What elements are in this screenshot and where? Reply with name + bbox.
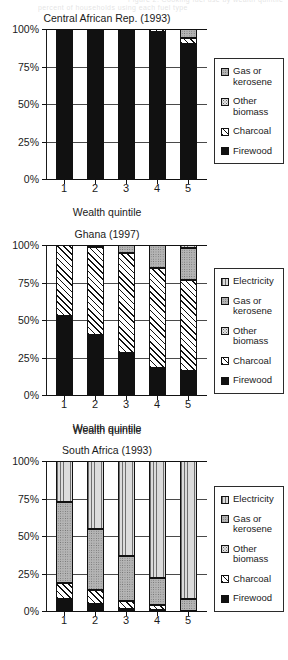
bar-segment-charcoal bbox=[87, 247, 104, 335]
x-axis-label: 3 bbox=[111, 614, 141, 626]
legend-item[interactable]: Gas or kerosene bbox=[221, 66, 278, 87]
legend-item[interactable]: Electricity bbox=[221, 276, 278, 287]
clipped-header-line1: Figure 2. Cooking fuel use by wealth qui… bbox=[128, 0, 283, 3]
stacked-bar bbox=[118, 245, 135, 395]
x-axis-label: 2 bbox=[80, 614, 110, 626]
bar-segment-firewood bbox=[56, 599, 73, 611]
plot-area: 100%75%50%25%0%12345 bbox=[46, 29, 206, 179]
y-axis-label: 25% bbox=[18, 568, 39, 580]
stacked-bar bbox=[56, 245, 73, 395]
bar-segment-firewood bbox=[149, 368, 166, 395]
clipped-header-text: Figure 2. Cooking fuel use by wealth qui… bbox=[0, 0, 288, 12]
y-axis-label: 0% bbox=[24, 389, 39, 401]
y-axis-label: 0% bbox=[24, 173, 39, 185]
y-axis-tick bbox=[42, 395, 47, 396]
legend-item[interactable]: Other biomass bbox=[221, 326, 278, 347]
legend-item[interactable]: Charcoal bbox=[221, 126, 278, 137]
bar-segment-firewood bbox=[149, 32, 166, 179]
legend-label: Electricity bbox=[233, 276, 274, 287]
legend-item[interactable]: Gas or kerosene bbox=[221, 296, 278, 317]
bar-segment-gas bbox=[149, 578, 166, 605]
x-axis-label: 2 bbox=[80, 182, 110, 194]
y-axis-label: 50% bbox=[18, 314, 39, 326]
y-axis-tick bbox=[42, 461, 47, 462]
bar-segment-elec bbox=[180, 245, 197, 248]
stacked-bar bbox=[180, 29, 197, 179]
legend-swatch-firewood-icon bbox=[221, 377, 229, 385]
legend-item[interactable]: Gas or kerosene bbox=[221, 514, 278, 535]
bar-segment-charcoal bbox=[149, 29, 166, 32]
legend-item[interactable]: Other biomass bbox=[221, 96, 278, 117]
y-axis-tick bbox=[42, 499, 47, 500]
plot-area: 100%75%50%25%0%12345 bbox=[46, 245, 206, 395]
bar-segment-charcoal bbox=[56, 245, 73, 316]
y-axis-label: 75% bbox=[18, 277, 39, 289]
legend-label: Charcoal bbox=[233, 356, 271, 367]
bar-segment-firewood bbox=[118, 29, 135, 179]
y-axis-label: 75% bbox=[18, 61, 39, 73]
legend-label: Electricity bbox=[233, 494, 274, 505]
bar-segment-gas bbox=[180, 599, 197, 611]
legend-item[interactable]: Firewood bbox=[221, 375, 278, 386]
bar-segment-elec bbox=[149, 461, 166, 578]
bar-segment-elec bbox=[118, 461, 135, 556]
legend-swatch-gas-icon bbox=[221, 297, 229, 305]
bar-segment-charcoal bbox=[180, 280, 197, 372]
legend-swatch-elec-icon bbox=[221, 496, 229, 504]
stacked-bar bbox=[149, 461, 166, 611]
legend-item[interactable]: Other biomass bbox=[221, 544, 278, 565]
x-axis-label: 3 bbox=[111, 398, 141, 410]
x-axis-label: 5 bbox=[173, 182, 203, 194]
y-axis-label: 100% bbox=[12, 23, 39, 35]
y-axis-tick bbox=[42, 320, 47, 321]
stacked-bar bbox=[87, 461, 104, 611]
y-axis-tick bbox=[42, 67, 47, 68]
x-axis-title: Wealth quintile bbox=[0, 424, 214, 436]
legend-item[interactable]: Electricity bbox=[221, 494, 278, 505]
y-axis-label: 75% bbox=[18, 493, 39, 505]
legend-item[interactable]: Charcoal bbox=[221, 574, 278, 585]
y-axis-tick bbox=[42, 29, 47, 30]
bar-segment-firewood bbox=[56, 29, 73, 179]
bar-segment-firewood bbox=[87, 604, 104, 612]
gridline bbox=[47, 179, 207, 180]
clipped-header-line2: percent of households using each fuel ty… bbox=[38, 4, 188, 11]
plot-area: 100%75%50%25%0%12345 bbox=[46, 461, 206, 611]
legend-item[interactable]: Charcoal bbox=[221, 356, 278, 367]
y-axis-tick bbox=[42, 245, 47, 246]
legend-label: Gas or kerosene bbox=[233, 66, 278, 87]
legend-label: Other biomass bbox=[233, 326, 278, 347]
bar-segment-gas bbox=[180, 29, 197, 38]
bar-segment-elec bbox=[87, 461, 104, 529]
legend: ElectricityGas or keroseneOther biomassC… bbox=[214, 486, 284, 612]
legend: Gas or keroseneOther biomassCharcoalFire… bbox=[214, 58, 284, 164]
y-axis-tick bbox=[42, 358, 47, 359]
x-axis-label: 1 bbox=[49, 614, 79, 626]
legend-item[interactable]: Firewood bbox=[221, 146, 278, 157]
legend-item[interactable]: Firewood bbox=[221, 593, 278, 604]
x-axis-label: 2 bbox=[80, 398, 110, 410]
x-axis-label: 4 bbox=[142, 182, 172, 194]
bar-segment-firewood bbox=[180, 371, 197, 395]
stacked-bar bbox=[56, 461, 73, 611]
y-axis-label: 50% bbox=[18, 530, 39, 542]
stacked-bar bbox=[87, 245, 104, 395]
legend-label: Charcoal bbox=[233, 574, 271, 585]
chart-panel-central-african-rep: Central African Rep. (1993)Wealth quinti… bbox=[0, 12, 288, 224]
legend-swatch-gas-icon bbox=[221, 515, 229, 523]
bar-segment-gas bbox=[149, 245, 166, 268]
gridline bbox=[47, 395, 207, 396]
x-axis-label: 5 bbox=[173, 614, 203, 626]
bar-segment-gas bbox=[56, 502, 73, 583]
bar-segment-firewood bbox=[87, 335, 104, 395]
bar-segment-gas bbox=[118, 556, 135, 601]
y-axis-label: 100% bbox=[12, 239, 39, 251]
bar-segment-gas bbox=[118, 245, 135, 253]
legend-label: Firewood bbox=[233, 593, 272, 604]
bar-segment-gas bbox=[87, 245, 104, 247]
stacked-bar bbox=[87, 29, 104, 179]
x-axis-label: 1 bbox=[49, 398, 79, 410]
legend-label: Other biomass bbox=[233, 544, 278, 565]
stacked-bar bbox=[149, 29, 166, 179]
legend-swatch-charcoal-icon bbox=[221, 575, 229, 583]
